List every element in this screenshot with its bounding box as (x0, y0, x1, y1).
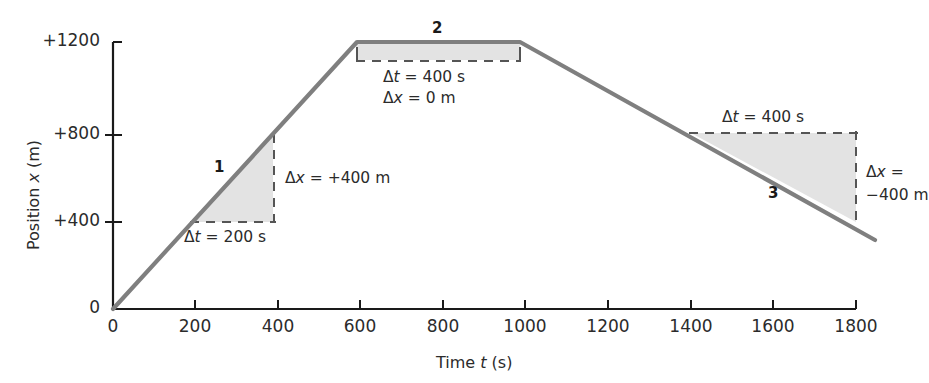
variable-x: x (296, 169, 305, 187)
delta-symbol: Δ (866, 163, 877, 181)
segment-1-delta-x: Δx = +400 m (285, 171, 390, 187)
x-axis-title-suffix: (s) (487, 353, 513, 372)
x-tick-label-1400: 1400 (656, 318, 726, 335)
segment-3-delta-x-value: −400 m (866, 188, 929, 204)
delta-symbol: Δ (383, 89, 394, 107)
y-axis-title: Position x (m) (26, 140, 42, 250)
segment-1-delta-t: Δt = 200 s (184, 230, 266, 246)
segment-1-number: 1 (214, 160, 224, 175)
x-tick-label-400: 400 (248, 318, 308, 335)
value: = (886, 163, 904, 181)
x-tick-label-200: 200 (165, 318, 225, 335)
y-tick-label-0: 0 (14, 299, 100, 316)
x-tick-label-1200: 1200 (573, 318, 643, 335)
variable-x: x (394, 89, 403, 107)
y-tick-label-1200: +1200 (14, 32, 100, 49)
segment-3-number: 3 (768, 186, 778, 201)
x-tick-label-1600: 1600 (738, 318, 808, 335)
value: = 400 s (400, 68, 465, 86)
x-tick-label-0: 0 (83, 318, 143, 335)
value: = 400 s (739, 108, 804, 126)
value: = +400 m (305, 169, 390, 187)
shade-region-3 (691, 133, 856, 222)
position-curve (113, 42, 875, 309)
segment-2-delta-x: Δx = 0 m (383, 91, 456, 107)
segment-2-number: 2 (432, 21, 442, 36)
x-tick-label-800: 800 (413, 318, 473, 335)
x-axis-title-prefix: Time (436, 353, 480, 372)
segment-2-delta-t: Δt = 400 s (383, 70, 465, 86)
variable-x: x (877, 163, 886, 181)
y-axis-title-suffix: (m) (24, 140, 43, 173)
value: = 0 m (403, 89, 456, 107)
x-tick-label-600: 600 (330, 318, 390, 335)
y-axis-title-prefix: Position (24, 183, 43, 250)
shade-region-2 (356, 42, 520, 60)
delta-symbol: Δ (184, 228, 195, 246)
x-tick-label-1000: 1000 (490, 318, 560, 335)
position-time-chart: +1200 +800 +400 0 0 200 400 600 800 1000… (0, 0, 929, 383)
segment-3-delta-x: Δx = (866, 165, 904, 181)
delta-symbol: Δ (285, 169, 296, 187)
delta-symbol: Δ (722, 108, 733, 126)
x-axis-title: Time t (s) (436, 355, 512, 371)
delta-symbol: Δ (383, 68, 394, 86)
y-axis-title-variable: x (24, 173, 43, 182)
x-tick-label-1800: 1800 (821, 318, 891, 335)
value: = 200 s (201, 228, 266, 246)
segment-3-delta-t: Δt = 400 s (722, 110, 804, 126)
